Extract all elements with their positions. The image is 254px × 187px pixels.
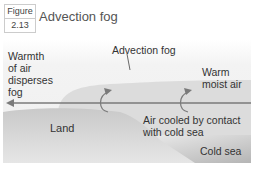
label-air-cooled: Air cooled by contact with cold sea [143, 114, 240, 138]
label-advection-fog: Advection fog [112, 44, 176, 56]
advection-fog-diagram: Warmth of air disperses fog Advection fo… [0, 40, 254, 187]
label-cold-sea: Cold sea [200, 145, 241, 157]
label-warm-moist-air: Warm moist air [202, 66, 242, 90]
figure-title: Advection fog [39, 9, 118, 24]
figure-number-badge: Figure 2.13 [4, 4, 36, 33]
label-land: Land [50, 122, 74, 134]
label-warmth-disperses-fog: Warmth of air disperses fog [8, 50, 53, 98]
figure-number: 2.13 [5, 19, 35, 32]
figure-label: Figure [5, 5, 35, 19]
